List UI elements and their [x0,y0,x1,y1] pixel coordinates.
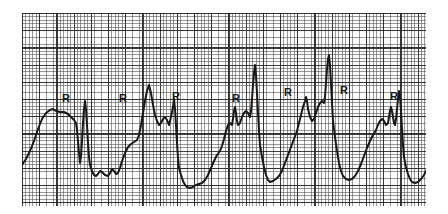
r-wave-label-6: R [340,85,348,96]
ecg-graph-paper: R R R R R R R [22,13,426,206]
r-wave-label-5: R [284,87,292,98]
r-wave-label-2: R [119,93,127,104]
r-wave-label-3: R [172,91,180,102]
ecg-rhythm-strip-figure: R R R R R R R [0,0,448,214]
ecg-trace-svg [22,13,426,206]
ecg-waveform-trace [22,55,426,188]
r-wave-label-1: R [62,93,70,104]
r-wave-label-7: R [390,91,398,102]
r-wave-label-4: R [232,93,240,104]
